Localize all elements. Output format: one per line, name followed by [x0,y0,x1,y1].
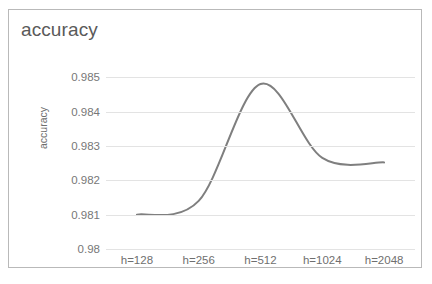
x-tick-label: h=1024 [303,254,342,266]
x-tick-label: h=256 [183,254,215,266]
y-axis-tick-labels: 0.9850.9840.9830.9820.9810.98 [42,60,100,249]
chart-frame: accuracy accuracy 0.9850.9840.9830.9820.… [8,9,422,268]
plot-area [106,60,415,249]
x-axis-tick-labels: h=128h=256h=512h=1024h=2048 [106,254,415,270]
y-tick-label: 0.981 [46,209,100,221]
y-tick-label: 0.983 [46,140,100,152]
chart-title: accuracy [21,19,98,41]
gridline [106,249,415,250]
y-tick-label: 0.982 [46,174,100,186]
y-tick-label: 0.984 [46,106,100,118]
gridline [106,77,415,78]
gridline [106,146,415,147]
y-tick-label: 0.985 [46,71,100,83]
gridline [106,112,415,113]
y-tick-label: 0.98 [46,243,100,255]
gridline [106,180,415,181]
accuracy-line-series [106,60,415,249]
x-tick-label: h=512 [244,254,276,266]
x-tick-label: h=2048 [365,254,404,266]
x-tick-label: h=128 [121,254,153,266]
gridline [106,215,415,216]
accuracy-line-path [137,84,384,216]
